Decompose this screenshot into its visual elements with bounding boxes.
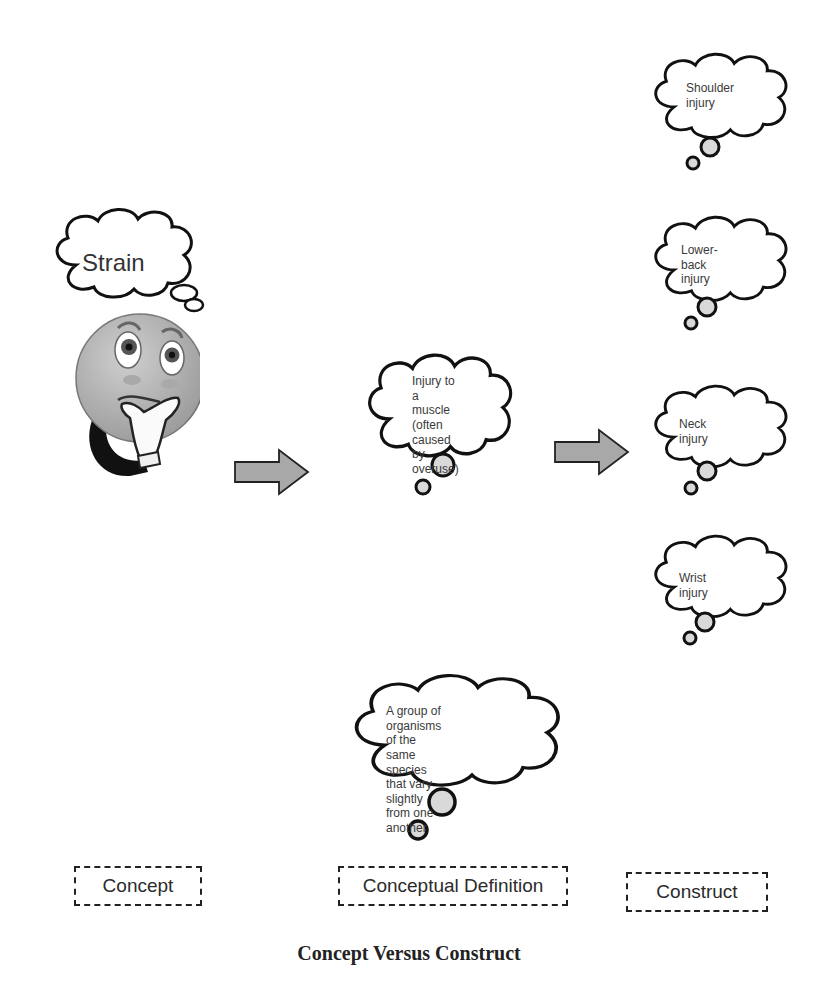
conceptual-definition-label: Conceptual Definition	[338, 866, 568, 906]
figure-caption: Concept Versus Construct	[0, 942, 818, 965]
concept-thought-text: Strain	[82, 248, 145, 277]
construct-label: Construct	[626, 872, 768, 912]
concept-label: Concept	[74, 866, 202, 906]
construct-bubble-wrist	[645, 532, 785, 647]
alternate-definition-text: A group of organisms of the same species…	[386, 704, 441, 836]
thinking-face-icon	[70, 300, 200, 485]
construct-text-shoulder: Shoulder injury	[686, 81, 734, 110]
construct-text-lower-back: Lower-back injury	[681, 243, 718, 287]
construct-label-text: Construct	[656, 881, 737, 903]
concept-label-text: Concept	[103, 875, 174, 897]
construct-text-wrist: Wrist injury	[679, 571, 708, 600]
arrow-right-icon	[233, 448, 311, 496]
arrow-right-icon	[553, 428, 631, 476]
definition-text: Injury to a muscle (often caused by over…	[412, 374, 459, 476]
alternate-definition-thought-bubble	[340, 670, 555, 840]
construct-bubble-neck	[645, 382, 785, 497]
construct-text-neck: Neck injury	[679, 417, 708, 446]
conceptual-definition-label-text: Conceptual Definition	[363, 875, 544, 897]
